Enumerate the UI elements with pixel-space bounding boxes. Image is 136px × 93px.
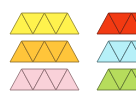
strip-light-blue bbox=[97, 41, 136, 62]
triangle-strips-diagram bbox=[0, 0, 136, 93]
strip-orange bbox=[10, 41, 79, 62]
strip-green bbox=[97, 69, 136, 90]
strip-yellow bbox=[10, 13, 79, 34]
strip-pink bbox=[10, 69, 79, 90]
strip-red bbox=[97, 13, 136, 34]
